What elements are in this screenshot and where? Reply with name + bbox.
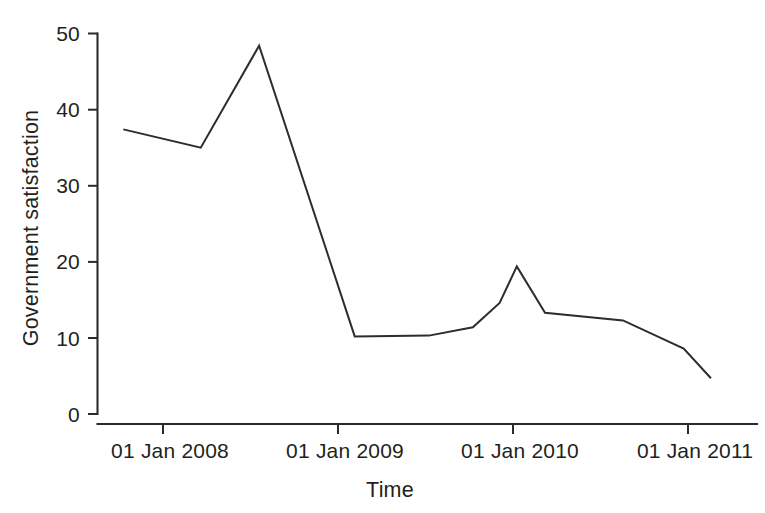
y-tick-label-0: 0 [68, 403, 80, 426]
x-axis-ticks [163, 424, 688, 434]
chart-figure: 50 40 30 20 10 0 01 Jan 2008 01 Jan 2009… [0, 0, 765, 513]
y-tick-label-10: 10 [56, 327, 80, 350]
line-chart-canvas: 50 40 30 20 10 0 01 Jan 2008 01 Jan 2009… [0, 0, 765, 513]
y-axis-title: Government satisfaction [19, 110, 43, 346]
y-tick-label-30: 30 [56, 174, 80, 197]
x-tick-label-2010: 01 Jan 2010 [461, 439, 579, 462]
y-tick-label-20: 20 [56, 250, 80, 273]
data-series-government-satisfaction [123, 46, 711, 379]
x-tick-label-2008: 01 Jan 2008 [111, 439, 229, 462]
x-tick-label-2011: 01 Jan 2011 [637, 439, 753, 462]
y-tick-label-40: 40 [56, 98, 80, 121]
x-axis-title: Time [366, 478, 414, 502]
y-axis-tick-labels: 50 40 30 20 10 0 [56, 22, 80, 426]
y-axis-ticks [88, 34, 98, 415]
y-tick-label-50: 50 [56, 22, 80, 45]
x-axis-tick-labels: 01 Jan 2008 01 Jan 2009 01 Jan 2010 01 J… [111, 439, 753, 462]
x-tick-label-2009: 01 Jan 2009 [286, 439, 404, 462]
